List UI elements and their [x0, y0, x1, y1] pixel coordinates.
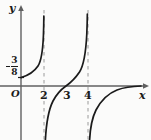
x-tick-label-3: 3	[63, 90, 71, 101]
x-axis-arrowhead	[143, 83, 149, 88]
x-tick-label-4: 4	[84, 90, 92, 101]
x-tick-label-2: 2	[40, 90, 48, 101]
y-intercept-fraction-label: 3 8	[6, 56, 18, 77]
graph-figure: y x O 2 3 4 3 8	[0, 0, 151, 140]
y-axis-label: y	[9, 3, 15, 14]
fraction-denominator: 8	[11, 68, 17, 77]
x-axis-label: x	[139, 90, 146, 101]
curve-branch-middle	[45, 14, 87, 140]
fraction-leading-dash	[6, 66, 10, 68]
origin-label: O	[11, 89, 20, 99]
y-axis-arrowhead	[18, 5, 24, 11]
rational-function-plot	[0, 0, 151, 140]
fraction-numerator: 3	[11, 56, 17, 65]
curve-branch-right	[90, 86, 141, 140]
fraction-stack: 3 8	[11, 56, 18, 77]
curve-branch-left	[21, 16, 44, 78]
